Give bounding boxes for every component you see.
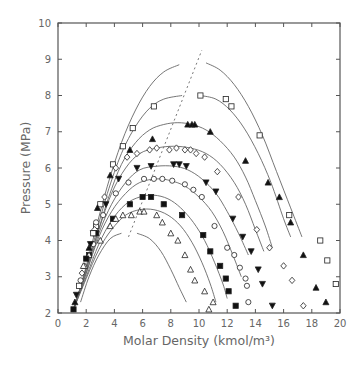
square-filled-marker (148, 194, 153, 199)
x-tick-label: 18 (305, 318, 318, 329)
y-tick-label: 2 (45, 308, 51, 319)
triangle-up-filled-marker (313, 285, 319, 291)
x-tick-label: 6 (139, 318, 145, 329)
y-tick-label: 5 (45, 199, 51, 210)
x-tick-label: 12 (221, 318, 234, 329)
x-tick-label: 14 (249, 318, 262, 329)
triangle-up-open-marker (154, 212, 160, 218)
triangle-down-filled-marker (230, 216, 236, 222)
square-open-marker (318, 238, 323, 243)
triangle-down-filled-marker (255, 267, 261, 273)
triangle-down-filled-marker (213, 189, 219, 195)
triangle-up-filled-marker (288, 219, 294, 225)
x-tick-label: 0 (55, 318, 61, 329)
diamond-open-marker (167, 147, 173, 153)
x-tick-label: 16 (277, 318, 290, 329)
square-open-marker (287, 213, 292, 218)
circle-open-marker (101, 213, 106, 218)
diamond-open-marker (202, 154, 208, 160)
square-open-marker (91, 231, 96, 236)
circle-open-marker (199, 194, 204, 199)
x-tick-label: 8 (168, 318, 174, 329)
square-filled-marker (179, 213, 184, 218)
circle-open-marker (78, 278, 83, 283)
curve-1 (74, 65, 180, 310)
triangle-down-filled-marker (248, 249, 254, 255)
circle-open-marker (170, 178, 175, 183)
triangle-up-open-marker (175, 237, 181, 243)
x-tick-label: 20 (334, 318, 347, 329)
circle-open-marker (244, 283, 249, 288)
circle-open-marker (191, 187, 196, 192)
triangle-up-filled-marker (300, 252, 306, 258)
circle-open-marker (182, 182, 187, 187)
triangle-up-filled-marker (149, 136, 155, 142)
x-axis-ticks: 02468101214161820 (55, 23, 347, 329)
diamond-open-marker (281, 263, 287, 269)
square-filled-marker (201, 232, 206, 237)
chart: 02468101214161820 2345678910 Molar Densi… (0, 0, 363, 365)
triangle-up-open-marker (159, 219, 165, 225)
square-filled-marker (223, 276, 228, 281)
square-open-marker (333, 281, 338, 286)
square-open-marker (120, 144, 125, 149)
square-open-marker (229, 104, 234, 109)
y-tick-label: 7 (45, 126, 51, 137)
square-filled-marker (71, 307, 76, 312)
diamond-open-marker (134, 150, 140, 156)
circle-open-marker (141, 176, 146, 181)
square-open-marker (130, 126, 135, 131)
y-axis-title: Pressure (MPa) (18, 122, 33, 215)
triangle-down-filled-marker (116, 176, 122, 182)
diamond-open-marker (236, 194, 242, 200)
diamond-open-marker (215, 168, 221, 174)
square-open-marker (198, 93, 203, 98)
square-filled-marker (140, 194, 145, 199)
triangle-up-filled-marker (107, 172, 113, 178)
square-filled-marker (161, 202, 166, 207)
circle-open-marker (246, 300, 251, 305)
x-axis-title: Molar Density (kmol/m³) (123, 333, 275, 348)
circle-open-marker (243, 276, 248, 281)
y-tick-label: 10 (38, 18, 51, 29)
square-open-marker (223, 97, 228, 102)
circle-open-marker (93, 220, 98, 225)
diamond-open-marker (193, 150, 199, 156)
triangle-up-open-marker (168, 230, 174, 236)
square-open-marker (325, 258, 330, 263)
diamond-open-marker (301, 303, 307, 309)
curve-1 (206, 63, 302, 237)
circle-open-marker (160, 176, 165, 181)
triangle-up-filled-marker (243, 158, 249, 164)
triangle-up-open-marker (120, 212, 126, 218)
plot-frame (58, 23, 340, 313)
square-filled-marker (84, 256, 89, 261)
triangle-up-filled-marker (276, 194, 282, 200)
diamond-open-marker (147, 147, 153, 153)
circle-open-marker (237, 265, 242, 270)
square-open-marker (77, 283, 82, 288)
triangle-up-open-marker (182, 252, 188, 258)
curve-5 (74, 166, 249, 310)
square-filled-marker (233, 303, 238, 308)
circle-open-marker (126, 180, 131, 185)
triangle-up-open-marker (202, 288, 208, 294)
square-filled-marker (218, 263, 223, 268)
circle-open-marker (113, 191, 118, 196)
square-filled-marker (208, 249, 213, 254)
y-tick-label: 4 (45, 235, 51, 246)
square-open-marker (151, 104, 156, 109)
x-tick-label: 4 (111, 318, 117, 329)
curve-9 (137, 233, 186, 302)
square-filled-marker (127, 202, 132, 207)
square-open-marker (257, 133, 262, 138)
circle-open-marker (212, 223, 217, 228)
diamond-open-marker (154, 145, 160, 151)
diamond-open-marker (289, 277, 295, 283)
y-tick-label: 8 (45, 90, 51, 101)
y-tick-label: 6 (45, 163, 51, 174)
circle-open-marker (151, 176, 156, 181)
diamond-open-marker (124, 154, 130, 160)
triangle-up-open-marker (206, 306, 212, 312)
y-tick-label: 9 (45, 54, 51, 65)
